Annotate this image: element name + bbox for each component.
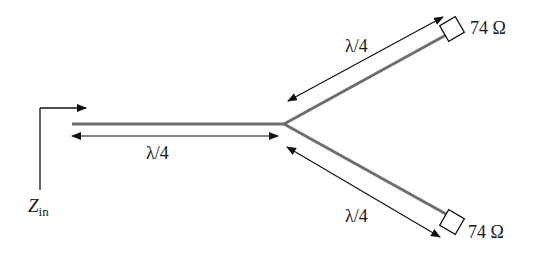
- main-length-label: λ/4: [146, 143, 169, 163]
- lower-length-label: λ/4: [345, 206, 368, 226]
- lower-branch-line: [284, 124, 446, 214]
- zin-reference-bracket: [40, 108, 86, 190]
- upper-load-label: 74 Ω: [470, 18, 506, 38]
- divider-diagram: Zin λ/4 λ/4 74 Ω λ/4 74 Ω: [0, 0, 539, 257]
- upper-length-arrow: [288, 17, 443, 101]
- upper-length-label: λ/4: [345, 36, 368, 56]
- lower-load-label: 74 Ω: [468, 222, 504, 242]
- zin-label: Zin: [28, 195, 49, 219]
